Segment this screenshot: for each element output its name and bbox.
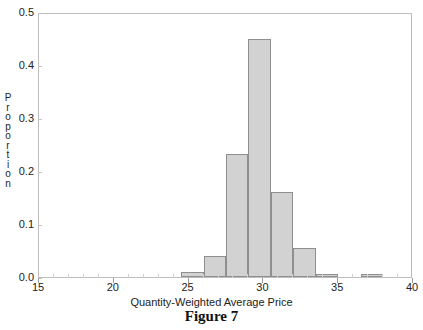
x-tick-minor [218, 274, 219, 278]
x-tick-minor [128, 274, 129, 278]
x-tick-minor [232, 274, 233, 278]
x-tick-minor [277, 274, 278, 278]
y-tick-label-0.4: 0.4 [4, 60, 34, 71]
y-tick-mark-0.4 [38, 66, 42, 67]
x-tick-minor [247, 274, 248, 278]
x-tick-minor [292, 274, 293, 278]
x-tick-label-40: 40 [392, 282, 423, 293]
y-tick-label-0.2: 0.2 [4, 166, 34, 177]
y-tick-label-0.1: 0.1 [4, 219, 34, 230]
x-tick-mark-40 [412, 278, 413, 283]
x-tick-minor [98, 274, 99, 278]
x-tick-minor [158, 274, 159, 278]
x-tick-minor [322, 274, 323, 278]
y-tick-mark-0.1 [38, 225, 42, 226]
x-tick-mark-15 [38, 278, 39, 283]
x-tick-minor [83, 274, 84, 278]
y-tick-label-0.5: 0.5 [4, 7, 34, 18]
x-tick-minor [68, 274, 69, 278]
x-tick-mark-30 [262, 278, 263, 283]
x-tick-label-15: 15 [18, 282, 58, 293]
x-tick-label-25: 25 [168, 282, 208, 293]
histogram-bar [293, 248, 315, 277]
x-tick-minor [397, 274, 398, 278]
histogram-bar [204, 256, 226, 277]
x-tick-minor [173, 274, 174, 278]
y-tick-mark-0.5 [38, 13, 42, 14]
y-tick-label-0.3: 0.3 [4, 113, 34, 124]
histogram-bar [181, 272, 203, 277]
x-tick-minor [307, 274, 308, 278]
x-tick-mark-20 [113, 278, 114, 283]
x-tick-mark-25 [188, 278, 189, 283]
x-tick-mark-35 [337, 278, 338, 283]
histogram-bar [271, 192, 293, 277]
x-tick-label-35: 35 [317, 282, 357, 293]
histogram-bar [316, 274, 338, 277]
x-tick-label-20: 20 [93, 282, 133, 293]
histogram-bar [226, 154, 248, 277]
y-tick-mark-0.2 [38, 172, 42, 173]
x-tick-minor [203, 274, 204, 278]
x-tick-minor [143, 274, 144, 278]
x-axis-title: Quantity-Weighted Average Price [0, 296, 423, 308]
x-tick-minor [53, 274, 54, 278]
figure-7: Proportion 0.00.10.20.30.40.5 1520253035… [0, 0, 423, 330]
y-axis-title-letter-9: n [2, 179, 14, 189]
x-tick-minor [367, 274, 368, 278]
figure-caption: Figure 7 [0, 308, 423, 325]
x-tick-minor [352, 274, 353, 278]
y-tick-mark-0.3 [38, 119, 42, 120]
plot-area [38, 13, 412, 278]
x-tick-label-30: 30 [242, 282, 282, 293]
histogram-bar [361, 274, 383, 277]
x-tick-minor [382, 274, 383, 278]
histogram-bar [248, 39, 270, 278]
